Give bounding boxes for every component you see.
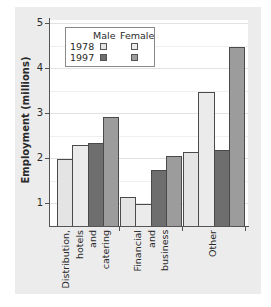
- gridline-minor: [50, 136, 248, 137]
- bar-male-1978-cat2: [120, 197, 136, 227]
- bar-female-1978-cat3: [198, 92, 214, 227]
- gridline-minor: [50, 91, 248, 92]
- x-group-separator: [182, 226, 183, 231]
- bar-male-1978-cat1: [57, 159, 73, 228]
- gridline-4: [50, 68, 248, 69]
- bar-male-1997-cat3: [214, 150, 230, 227]
- legend-row-1997: 1997: [70, 52, 94, 63]
- x-label-distribution-line4: catering: [101, 230, 111, 271]
- legend-swatch-male-1997: [100, 54, 107, 61]
- x-group-separator: [119, 226, 120, 231]
- x-label-financial-line1: Financial: [133, 230, 143, 275]
- x-label-distribution-line1: Distribution,: [61, 230, 71, 292]
- y-tick-label: 2: [33, 153, 43, 163]
- bar-female-1978-cat1: [72, 145, 88, 227]
- x-axis: [49, 226, 249, 227]
- legend-col-female: Female: [120, 30, 154, 41]
- x-group-separator: [245, 226, 246, 231]
- y-tick-label: 1: [33, 198, 43, 208]
- gridline-3: [50, 113, 248, 114]
- legend-swatch-male-1978: [100, 43, 107, 50]
- x-label-distribution-line2: hotels: [75, 230, 85, 262]
- x-label-financial-line3: business: [160, 230, 170, 271]
- x-label-distribution-line3: and: [88, 230, 98, 255]
- y-tick-label: 3: [33, 108, 43, 118]
- legend: Male Female 1978 1997: [65, 27, 155, 67]
- legend-swatch-female-1997: [131, 54, 138, 61]
- bar-male-1997-cat2: [151, 170, 167, 227]
- legend-row-1978: 1978: [70, 41, 94, 52]
- y-axis-title: Employment (millions): [20, 40, 31, 200]
- legend-swatch-female-1978: [131, 43, 138, 50]
- bar-female-1997-cat2: [166, 156, 182, 227]
- bar-female-1997-cat3: [229, 47, 245, 227]
- x-label-other: Other: [208, 230, 218, 259]
- y-tick-label: 5: [33, 18, 43, 28]
- bar-male-1997-cat1: [88, 143, 104, 227]
- x-label-financial-line2: and: [147, 230, 157, 255]
- y-tick-label: 4: [33, 63, 43, 73]
- legend-col-male: Male: [93, 30, 116, 41]
- gridline-5: [50, 23, 248, 24]
- bar-male-1978-cat3: [183, 152, 199, 227]
- y-axis: [49, 18, 50, 227]
- bar-female-1997-cat1: [103, 117, 119, 227]
- bar-female-1978-cat2: [135, 204, 151, 227]
